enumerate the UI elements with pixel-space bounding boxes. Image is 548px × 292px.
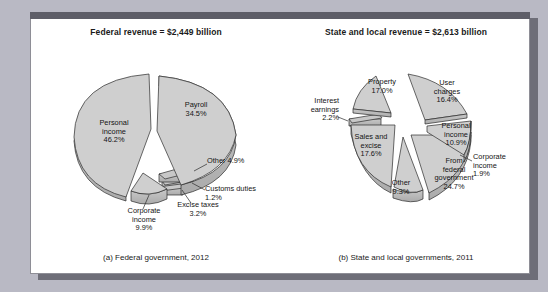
label-sales-and-excise: Sales and excise 17.6% bbox=[341, 133, 401, 159]
pie-state-local-svg bbox=[281, 13, 531, 243]
label-interest-earnings: Interest earnings 2.2% bbox=[283, 97, 339, 123]
label-payroll-federal: Payroll 34.5% bbox=[167, 101, 225, 118]
label-excise-taxes-federal: Excise taxes 3.2% bbox=[167, 201, 229, 218]
label-other-federal: Other 4.9% bbox=[207, 157, 277, 166]
figure-container: Federal revenue = $2,449 billion bbox=[30, 12, 530, 274]
panel-state-local-revenue: State and local revenue = $2,613 billion bbox=[281, 13, 531, 273]
panel-federal-revenue: Federal revenue = $2,449 billion bbox=[31, 13, 281, 273]
label-other-sl: Other 9.3% bbox=[379, 179, 423, 196]
figure-top-accent-bar bbox=[30, 12, 530, 19]
label-property: Property 17.0% bbox=[353, 78, 411, 95]
caption-state-local: (b) State and local governments, 2011 bbox=[281, 253, 531, 262]
label-corporate-income-federal: Corporate income 9.9% bbox=[113, 207, 175, 233]
label-personal-income-federal: Personal income 46.2% bbox=[83, 119, 145, 145]
label-from-federal-government: From federal government 24.7% bbox=[419, 157, 489, 191]
pie-federal bbox=[31, 13, 281, 273]
caption-federal: (a) Federal government, 2012 bbox=[31, 253, 281, 262]
label-user-charges: User charges 16.4% bbox=[421, 79, 473, 105]
label-personal-income-sl: Personal income 10.9% bbox=[429, 122, 483, 148]
pie-state-local bbox=[281, 13, 531, 273]
